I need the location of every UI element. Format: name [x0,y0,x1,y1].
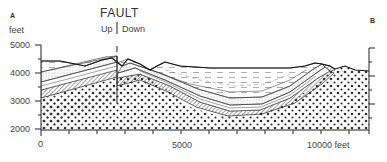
y-axis-right [369,48,375,134]
x-axis [41,130,369,136]
cross-section-drawing [0,0,387,162]
strata-group [41,56,369,130]
y-axis-left [35,45,41,130]
